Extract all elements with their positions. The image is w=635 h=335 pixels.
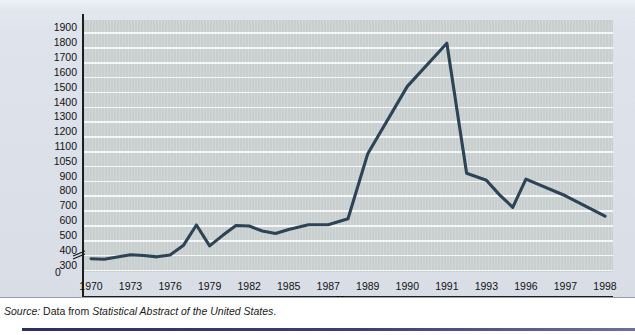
source-label: Source: [4,305,40,317]
y-tick-label: 1200 [19,126,77,136]
x-tick-label: 1996 [514,281,537,292]
y-tick-label: 600 [19,215,77,225]
y-axis-tick-labels: 1900180017001600150014001300120011001050… [19,20,77,272]
x-tick-label: 1982 [237,281,260,292]
x-tick-label: 1997 [554,281,577,292]
source-caption: Source: Data from Statistical Abstract o… [4,305,276,317]
y-tick-label: 1700 [19,52,77,62]
x-tick-label: 1987 [317,281,340,292]
y-tick-label: 900 [19,171,77,181]
y-tick-label: 1900 [19,22,77,32]
series-path [91,43,605,259]
y-tick-label: 1300 [19,111,77,121]
figure-panel: 1900180017001600150014001300120011001050… [0,0,635,297]
source-text: Data from [40,305,92,317]
source-publication: Statistical Abstract of the United State… [92,305,273,317]
caption-band: Source: Data from Statistical Abstract o… [0,297,635,335]
y-tick-label: 1400 [19,97,77,107]
plot-area: 1900180017001600150014001300120011001050… [83,20,613,272]
x-tick-label: 1985 [277,281,300,292]
caption-separator [0,297,635,298]
x-tick-label: 1989 [356,281,379,292]
x-tick-label: 1973 [119,281,142,292]
y-tick-label: 700 [19,200,77,210]
y-tick-label: 1800 [19,37,77,47]
panel-top-fade [0,0,635,14]
y-tick-label: 300 [19,260,77,270]
x-tick-label: 1990 [396,281,419,292]
y-tick-label: 1100 [19,141,77,151]
y-tick-label: 800 [19,185,77,195]
bottom-rule [22,328,635,331]
immigrants-line-series [83,20,613,272]
x-tick-label: 1998 [593,281,616,292]
source-period: . [273,305,276,317]
x-tick-label: 1991 [435,281,458,292]
axis-break-icon [72,247,88,261]
y-axis-zero-label: 0 [55,266,61,278]
figure-root: 1900180017001600150014001300120011001050… [0,0,635,335]
x-tick-label: 1970 [79,281,102,292]
x-tick-label: 1976 [158,281,181,292]
x-tick-label: 1979 [198,281,221,292]
y-tick-label: 1050 [19,156,77,166]
x-tick-label: 1993 [475,281,498,292]
y-tick-label: 1500 [19,82,77,92]
y-tick-label: 400 [19,245,77,255]
y-tick-label: 500 [19,230,77,240]
y-tick-label: 1600 [19,67,77,77]
